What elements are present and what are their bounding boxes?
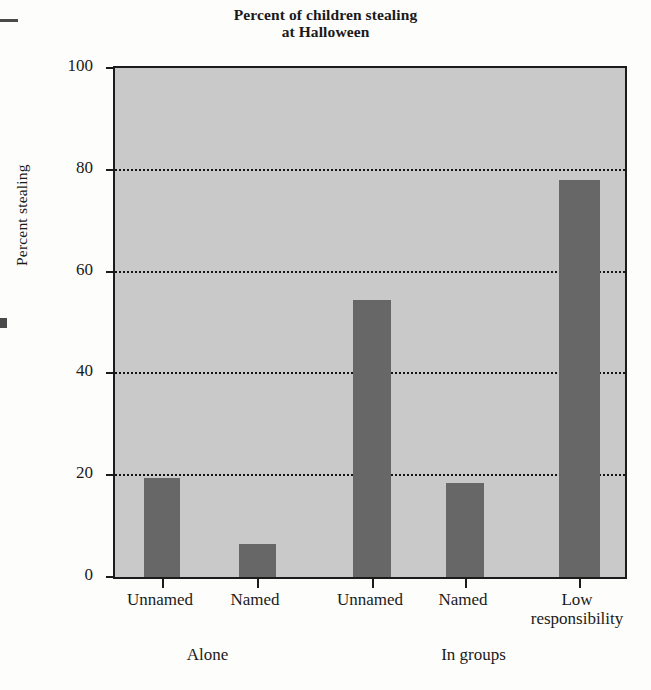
y-tick-label-60: 60 xyxy=(31,261,93,278)
y-tick-100 xyxy=(106,67,115,69)
y-tick-label-80: 80 xyxy=(31,159,93,176)
x-label-4: Named xyxy=(438,590,487,609)
x-tick-3 xyxy=(372,577,374,588)
bar-3 xyxy=(353,300,391,577)
x-label-line-1: Named xyxy=(438,590,487,609)
x-label-line-1: Unnamed xyxy=(127,590,193,609)
x-tick-5 xyxy=(579,577,581,588)
x-axis-category-labels: UnnamedNamedUnnamedNamedLowresponsibilit… xyxy=(113,590,627,640)
bar-4 xyxy=(446,483,484,577)
x-label-5: Lowresponsibility xyxy=(531,590,624,628)
x-label-line-1: Unnamed xyxy=(337,590,403,609)
x-tick-1 xyxy=(162,577,164,588)
group-label-2: In groups xyxy=(441,645,506,664)
plot-area xyxy=(113,66,627,579)
y-tick-label-0: 0 xyxy=(31,566,93,583)
bar-1 xyxy=(144,478,180,577)
bar-2 xyxy=(239,544,276,577)
page-edge-artifact-middle xyxy=(0,318,7,328)
gridline-80 xyxy=(115,169,625,171)
group-label-1: Alone xyxy=(187,645,229,664)
y-axis-title: Percent stealing xyxy=(13,164,31,266)
x-tick-2 xyxy=(257,577,259,588)
y-tick-label-100: 100 xyxy=(31,57,93,74)
chart-title-line-2: at Halloween xyxy=(0,23,651,40)
y-tick-label-40: 40 xyxy=(31,362,93,379)
y-tick-20 xyxy=(106,474,115,476)
x-label-line-1: Low xyxy=(561,590,592,609)
x-label-2: Named xyxy=(230,590,279,609)
chart-title: Percent of children stealing at Hallowee… xyxy=(0,6,651,40)
bar-5 xyxy=(559,180,600,577)
y-tick-label-20: 20 xyxy=(31,464,93,481)
x-label-line-2: responsibility xyxy=(531,609,624,628)
x-axis-group-labels: AloneIn groups xyxy=(113,645,627,675)
x-tick-4 xyxy=(465,577,467,588)
x-label-1: Unnamed xyxy=(127,590,193,609)
y-tick-40 xyxy=(106,372,115,374)
y-tick-60 xyxy=(106,271,115,273)
y-tick-0 xyxy=(106,576,115,578)
x-label-line-1: Named xyxy=(230,590,279,609)
x-label-3: Unnamed xyxy=(337,590,403,609)
y-tick-80 xyxy=(106,169,115,171)
gridline-60 xyxy=(115,271,625,273)
chart-title-line-1: Percent of children stealing xyxy=(0,6,651,23)
